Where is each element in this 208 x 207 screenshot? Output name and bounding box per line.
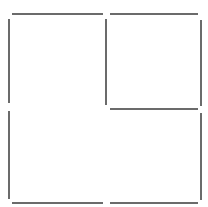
panel-layout-diagram	[0, 0, 208, 207]
diagram-canvas	[0, 0, 208, 207]
